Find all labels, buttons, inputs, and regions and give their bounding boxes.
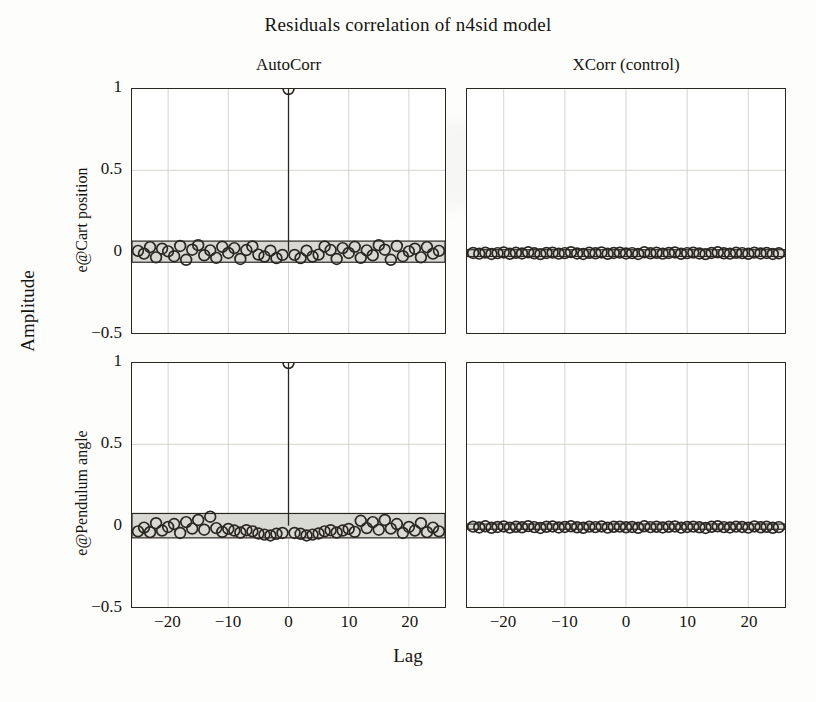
ytick-row1-2: 0 bbox=[62, 515, 122, 535]
ytick-row1-3: −0.5 bbox=[62, 597, 122, 617]
xtick-col0-3: 10 bbox=[326, 612, 372, 632]
axis-label-lag: Lag bbox=[0, 645, 816, 667]
plot-panel-autocorr-pendulum-angle[interactable] bbox=[131, 362, 446, 608]
figure-root: Residuals correlation of n4sid model Aut… bbox=[0, 0, 816, 702]
xtick-col0-1: −10 bbox=[205, 612, 251, 632]
xtick-col0-0: −20 bbox=[144, 612, 190, 632]
ytick-row0-3: −0.5 bbox=[62, 323, 122, 343]
ytick-row0-1: 0.5 bbox=[62, 159, 122, 179]
row-label-pendulum-angle: e@Pendulum angle bbox=[73, 393, 91, 593]
row-label-cart-position: e@Cart position bbox=[73, 120, 91, 320]
axis-label-amplitude: Amplitude bbox=[17, 221, 39, 401]
figure-title: Residuals correlation of n4sid model bbox=[0, 14, 816, 36]
plot-panel-xcorr-pendulum-angle[interactable] bbox=[466, 362, 786, 608]
column-title-xcorr: XCorr (control) bbox=[466, 55, 786, 75]
xtick-col0-4: 20 bbox=[387, 612, 433, 632]
ytick-row0-2: 0 bbox=[62, 241, 122, 261]
plot-panel-xcorr-cart-position[interactable] bbox=[466, 88, 786, 334]
xtick-col1-2: 0 bbox=[603, 612, 649, 632]
ytick-row1-1: 0.5 bbox=[62, 433, 122, 453]
xtick-col1-1: −10 bbox=[541, 612, 587, 632]
ytick-row0-0: 1 bbox=[62, 77, 122, 97]
xtick-col1-3: 10 bbox=[665, 612, 711, 632]
column-title-autocorr: AutoCorr bbox=[131, 55, 446, 75]
xtick-col1-0: −20 bbox=[480, 612, 526, 632]
xtick-col0-2: 0 bbox=[266, 612, 312, 632]
ytick-row1-0: 1 bbox=[62, 351, 122, 371]
plot-panel-autocorr-cart-position[interactable] bbox=[131, 88, 446, 334]
xtick-col1-4: 20 bbox=[726, 612, 772, 632]
